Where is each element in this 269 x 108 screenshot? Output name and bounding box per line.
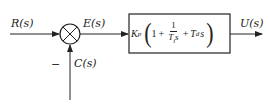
pid-transfer-function: Kp ( 1 + 1 Tis + Tds ) [131, 15, 228, 52]
right-paren: ) [206, 20, 213, 46]
minus-sign: − [51, 58, 60, 71]
feedback-label: C(s) [74, 57, 97, 70]
plus-1: + [159, 28, 165, 39]
integral-fraction: 1 Tis [168, 20, 178, 47]
td-s: s [200, 28, 204, 39]
one: 1 [152, 28, 157, 39]
kp-sub: p [138, 30, 142, 38]
plus-2: + [183, 28, 189, 39]
output-label: U(s) [240, 17, 264, 30]
frac-den: Tis [168, 32, 178, 47]
ti-s: s [175, 32, 179, 42]
input-label: R(s) [11, 17, 34, 30]
left-paren: ( [144, 20, 151, 46]
error-label: E(s) [83, 17, 105, 30]
kp: K [131, 28, 138, 39]
td-sub: d [196, 30, 200, 38]
frac-num: 1 [170, 20, 177, 32]
